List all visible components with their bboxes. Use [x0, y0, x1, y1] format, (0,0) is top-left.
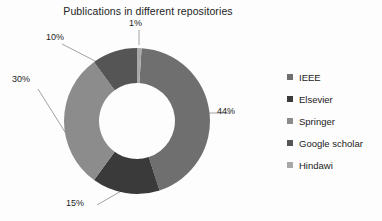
legend-swatch-icon [287, 118, 293, 124]
legend-swatch-icon [287, 96, 293, 102]
legend-swatch-icon [287, 162, 293, 168]
legend-item-label: IEEE [299, 72, 321, 83]
legend-item-google-scholar[interactable]: Google scholar [287, 132, 382, 154]
legend-item-springer[interactable]: Springer [287, 110, 382, 132]
slice-label-hindawi: 1% [129, 18, 142, 28]
legend-swatch-icon [287, 74, 293, 80]
legend-item-elsevier[interactable]: Elsevier [287, 88, 382, 110]
donut-svg [62, 45, 212, 197]
slice-label-springer: 30% [12, 74, 30, 84]
chart-legend: IEEE Elsevier Springer Google scholar Hi… [287, 66, 382, 176]
legend-item-ieee[interactable]: IEEE [287, 66, 382, 88]
chart-title: Publications in different repositories [0, 5, 296, 17]
legend-item-label: Springer [299, 116, 335, 127]
legend-item-label: Hindawi [299, 160, 333, 171]
legend-swatch-icon [287, 140, 293, 146]
slice-label-ieee: 44% [217, 106, 235, 116]
legend-item-hindawi[interactable]: Hindawi [287, 154, 382, 176]
legend-item-label: Elsevier [299, 94, 333, 105]
slice-label-elsevier: 15% [66, 198, 84, 208]
donut-graphic [62, 45, 212, 197]
legend-item-label: Google scholar [299, 138, 363, 149]
donut-chart: Publications in different repositories [0, 0, 382, 221]
slice-label-google-scholar: 10% [46, 32, 64, 42]
